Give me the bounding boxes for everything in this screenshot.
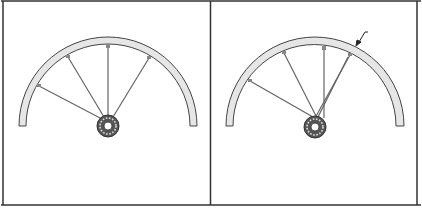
diagram-frame <box>0 0 422 210</box>
right-rim <box>226 37 404 126</box>
left-wheel-panel <box>19 37 197 137</box>
arrow-icon <box>356 32 368 46</box>
left-nipples <box>37 44 151 87</box>
right-hub-icon <box>304 116 326 138</box>
right-nipples <box>248 46 352 82</box>
left-hub-icon <box>97 115 119 137</box>
right-wheel-panel <box>226 32 404 138</box>
panel-borders <box>1 1 421 205</box>
